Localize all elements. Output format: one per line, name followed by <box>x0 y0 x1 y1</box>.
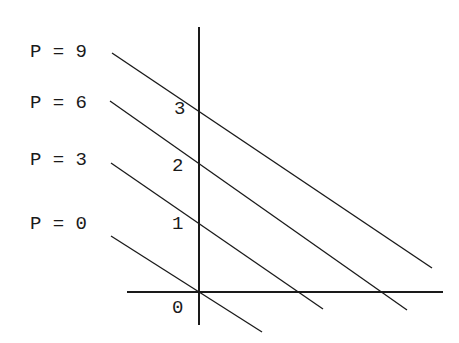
y-tick-1: 1 <box>172 214 183 234</box>
label-p0: P = 0 <box>30 214 87 234</box>
y-tick-3: 3 <box>174 99 185 119</box>
isoprofit-diagram: P = 9 P = 6 P = 3 P = 0 3 2 1 0 <box>0 0 459 343</box>
line-p9 <box>112 53 432 268</box>
line-p6 <box>110 101 407 310</box>
label-p6: P = 6 <box>30 93 87 113</box>
label-p9: P = 9 <box>30 42 87 62</box>
line-p3 <box>111 163 323 309</box>
origin-label: 0 <box>172 298 183 318</box>
y-tick-2: 2 <box>172 156 183 176</box>
label-p3: P = 3 <box>30 150 87 170</box>
line-p0 <box>111 236 262 332</box>
